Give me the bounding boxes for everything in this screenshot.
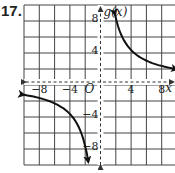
curve-branch-2 [24, 95, 88, 162]
x-tick-label: 8 [158, 83, 165, 96]
x-tick-label: 4 [128, 83, 135, 96]
origin-label: O [85, 82, 95, 96]
x-axis-label: x [165, 81, 172, 95]
curve-branch-1 [115, 15, 175, 70]
y-tick-label: 4 [92, 44, 99, 57]
y-tick-label: −4 [82, 108, 98, 121]
x-tick-label: −4 [62, 83, 78, 96]
hyperbola-graph: −8−44884−4−8Oxg(x) [0, 0, 175, 173]
x-tick-label: −8 [31, 83, 47, 96]
y-tick-label: 8 [92, 12, 99, 25]
